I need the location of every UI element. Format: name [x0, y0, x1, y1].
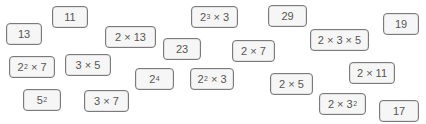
card-base-text: 29 [281, 10, 293, 22]
card-base-text: 13 [18, 28, 30, 40]
factor-card-c17[interactable]: 17 [379, 100, 419, 122]
card-base-text: 3 × 5 [76, 59, 101, 71]
factor-card-c30[interactable]: 2 × 3 × 5 [310, 29, 369, 51]
card-base-text: 2 × 11 [357, 67, 387, 79]
card-base-text: 3 × 7 [94, 95, 119, 107]
factor-card-c10[interactable]: 2 × 5 [270, 73, 313, 95]
card-rest-text: × 3 [210, 11, 229, 23]
card-base-text: 2 × 7 [241, 45, 266, 57]
factor-card-c28[interactable]: 22 × 7 [9, 56, 55, 78]
card-base-text: 2 × 13 [115, 31, 146, 43]
card-base-text: 2 × 3 × 5 [318, 34, 361, 46]
factor-card-c16[interactable]: 24 [135, 68, 174, 90]
factor-card-c21[interactable]: 3 × 7 [84, 90, 129, 112]
factor-card-c23[interactable]: 23 [163, 38, 201, 60]
card-exponent: 2 [204, 75, 208, 82]
card-rest-text: × 7 [28, 61, 47, 73]
card-rest-text: × 3 [208, 73, 227, 85]
card-base-text: 23 [176, 43, 188, 55]
card-base-text: 2 [200, 11, 206, 23]
factor-card-c26[interactable]: 2 × 13 [105, 26, 156, 48]
factor-card-c12[interactable]: 22 × 3 [190, 68, 234, 90]
card-exponent: 3 [207, 13, 211, 20]
card-exponent: 4 [156, 75, 160, 82]
card-base-text: 2 [149, 73, 155, 85]
card-base-text: 17 [393, 105, 405, 117]
card-base-text: 2 [197, 73, 203, 85]
factor-card-c25[interactable]: 52 [23, 89, 61, 111]
card-base-text: 5 [37, 94, 43, 106]
factor-card-c19[interactable]: 19 [383, 13, 419, 35]
factor-card-c11[interactable]: 11 [52, 6, 88, 28]
card-base-text: 2 [17, 61, 23, 73]
factor-card-c14[interactable]: 2 × 7 [232, 40, 275, 62]
factor-card-c22[interactable]: 2 × 11 [349, 62, 395, 84]
card-exponent: 2 [43, 96, 47, 103]
factor-card-c15[interactable]: 3 × 5 [65, 54, 111, 76]
card-exponent: 2 [24, 63, 28, 70]
card-exponent: 2 [353, 100, 357, 107]
card-base-text: 19 [395, 18, 407, 30]
card-base-text: 2 × 5 [279, 78, 304, 90]
factor-card-c29[interactable]: 29 [268, 5, 307, 27]
factor-card-c18[interactable]: 2 × 32 [319, 93, 366, 115]
card-base-text: 2 × 3 [328, 98, 353, 110]
factor-card-c24[interactable]: 23 × 3 [191, 6, 238, 28]
card-base-text: 11 [64, 11, 75, 23]
factor-card-c13[interactable]: 13 [6, 23, 42, 45]
